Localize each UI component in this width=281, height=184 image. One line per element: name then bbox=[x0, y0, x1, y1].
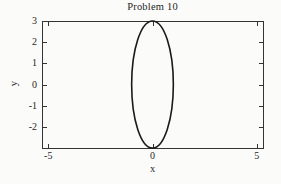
ellipse-curve bbox=[132, 21, 174, 148]
x-tick-label: -5 bbox=[36, 150, 60, 161]
figure: Problem 10 y x -5053210-1-2 bbox=[0, 0, 281, 184]
y-tick-label: -1 bbox=[0, 100, 37, 111]
y-tick-label: 2 bbox=[0, 36, 37, 47]
x-tick-label: 5 bbox=[245, 150, 269, 161]
y-tick-label: 3 bbox=[0, 15, 37, 26]
y-tick-label: 1 bbox=[0, 57, 37, 68]
plot-frame bbox=[43, 22, 264, 149]
y-tick-label: -2 bbox=[0, 121, 37, 132]
x-axis-label: x bbox=[42, 163, 263, 174]
y-tick-label: 0 bbox=[0, 79, 37, 90]
x-tick-label: 0 bbox=[141, 150, 165, 161]
